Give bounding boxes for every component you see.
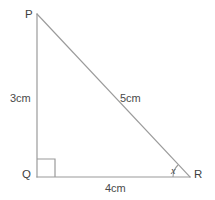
side-length-label-pr: 5cm xyxy=(120,92,141,104)
side-length-label-pq: 3cm xyxy=(10,92,31,104)
right-angle-marker-icon xyxy=(37,159,55,177)
side-pr-line xyxy=(37,14,190,177)
triangle-drawing xyxy=(0,0,215,200)
geometry-figure: P Q R 3cm 5cm 4cm x xyxy=(0,0,215,200)
vertex-label-r: R xyxy=(194,168,202,180)
angle-label-x: x xyxy=(171,165,175,177)
side-length-label-qr: 4cm xyxy=(105,182,126,194)
vertex-label-q: Q xyxy=(22,168,31,180)
vertex-label-p: P xyxy=(25,8,33,20)
